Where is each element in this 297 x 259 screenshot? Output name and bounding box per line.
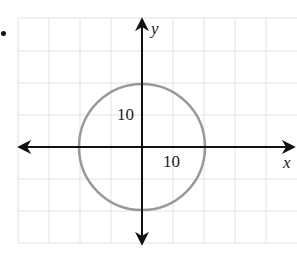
x-tick-label: 10 — [163, 153, 180, 170]
y-axis-label: y — [151, 20, 159, 37]
y-tick-label: 10 — [117, 106, 134, 123]
coordinate-plane — [0, 0, 297, 259]
x-axis-label: x — [283, 154, 291, 171]
